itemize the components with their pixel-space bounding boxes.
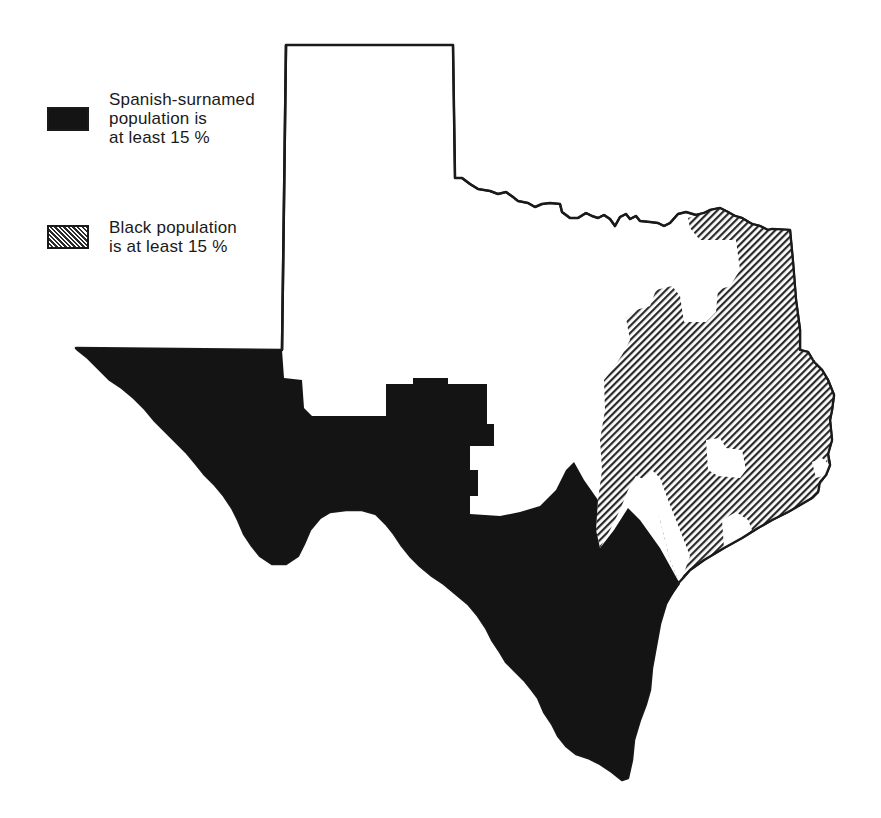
legend-label-black: Black population is at least 15 % xyxy=(109,218,237,256)
legend-item-spanish-surnamed: Spanish-surnamed population is at least … xyxy=(47,90,255,147)
legend-line: population is xyxy=(109,109,255,128)
legend-line: Black population xyxy=(109,218,237,237)
legend-swatch-hatch xyxy=(47,225,89,249)
legend-line: at least 15 % xyxy=(109,128,255,147)
legend-swatch-solid xyxy=(47,107,89,131)
legend-item-black-population: Black population is at least 15 % xyxy=(47,218,237,256)
legend-line: is at least 15 % xyxy=(109,237,237,256)
legend-label-spanish: Spanish-surnamed population is at least … xyxy=(109,90,255,147)
legend-line: Spanish-surnamed xyxy=(109,90,255,109)
